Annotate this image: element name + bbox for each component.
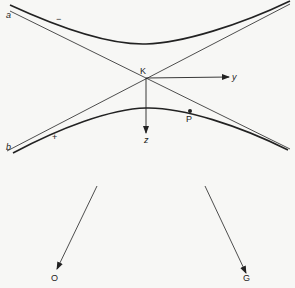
asymptote-b (7, 4, 290, 151)
upper-hyperbola-branch (10, 1, 290, 44)
label-y: y (231, 72, 237, 82)
label-o: O (51, 273, 58, 283)
label-k: K (140, 66, 146, 76)
asymptote-a (10, 11, 290, 149)
arrow-to-g (205, 186, 246, 273)
label-p: P (186, 114, 192, 124)
y-axis-arrow (146, 77, 229, 78)
label-g: G (243, 273, 250, 283)
diagram-canvas: a b − + K y z P O G (0, 0, 295, 288)
label-a: a (6, 10, 11, 20)
arrow-to-o (57, 186, 97, 269)
label-plus: + (52, 132, 57, 142)
point-p-marker (188, 109, 192, 113)
lower-hyperbola-branch (13, 108, 288, 153)
label-minus: − (56, 14, 61, 24)
label-z: z (143, 135, 149, 145)
label-b: b (6, 142, 11, 152)
